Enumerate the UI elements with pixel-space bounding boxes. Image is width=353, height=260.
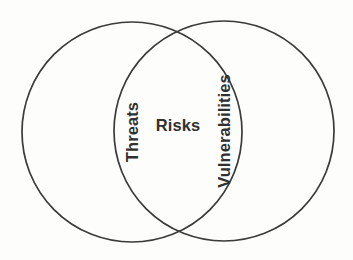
venn-label-risks: Risks — [156, 116, 201, 135]
venn-label-threats: Threats — [123, 102, 142, 162]
venn-diagram: Threats Risks Vulnerabilities — [0, 0, 353, 260]
venn-label-vulnerabilities: Vulnerabilities — [215, 74, 234, 188]
